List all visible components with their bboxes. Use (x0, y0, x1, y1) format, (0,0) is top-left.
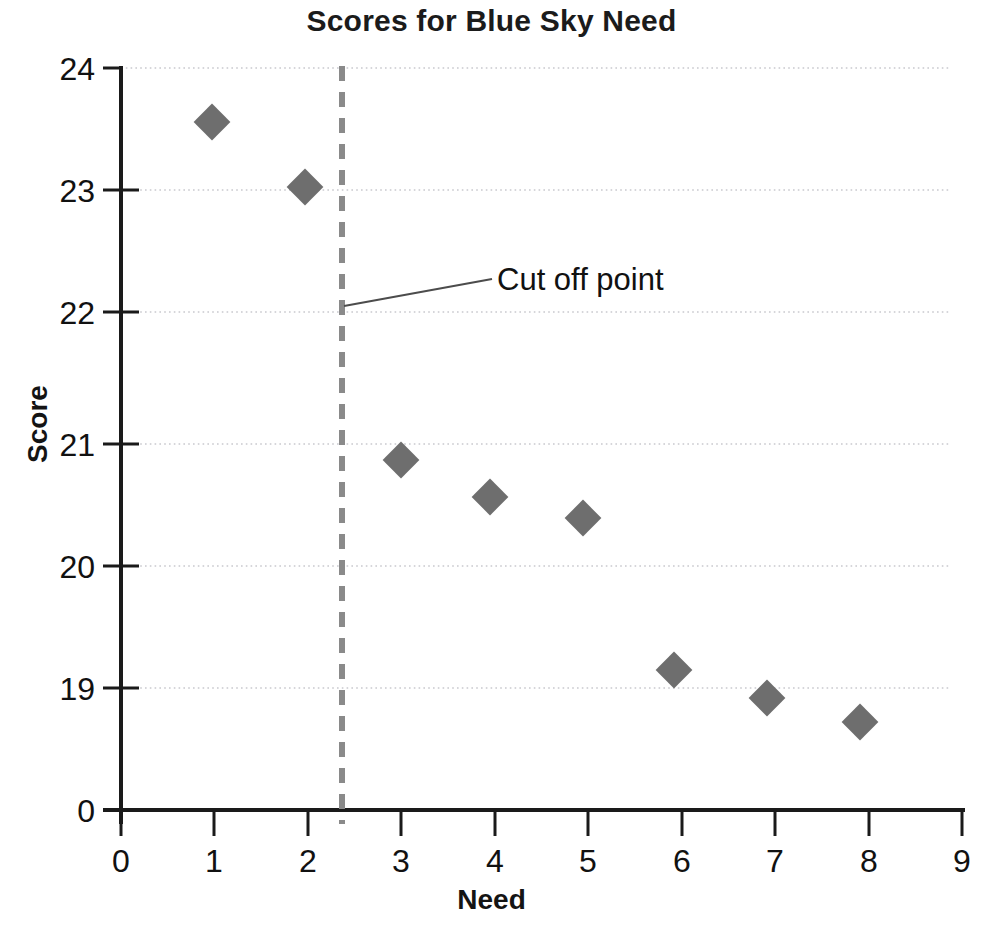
y-tick-label-19: 19 (59, 671, 95, 707)
cut-off-point-label: Cut off point (497, 262, 664, 297)
data-point-marker[interactable] (749, 680, 786, 717)
y-tick-label-21: 21 (59, 427, 95, 463)
x-tick-label-0: 0 (112, 843, 130, 879)
cut-off-point-leader-line (344, 279, 492, 306)
chart-page: Scores for Blue Sky Need 24 23 22 21 20 (0, 0, 983, 932)
y-tick-label-23: 23 (59, 173, 95, 209)
scatter-plot: 24 23 22 21 20 19 0 0 1 2 3 4 5 (0, 0, 983, 932)
x-tick-label-3: 3 (392, 843, 410, 879)
x-axis-title: Need (0, 884, 983, 916)
data-point-marker[interactable] (656, 652, 693, 689)
x-tick-label-5: 5 (579, 843, 597, 879)
y-tick-label-22: 22 (59, 295, 95, 331)
data-point-marker[interactable] (565, 500, 602, 537)
gridlines-horizontal (121, 68, 950, 688)
x-tick-label-8: 8 (860, 843, 878, 879)
data-point-marker[interactable] (194, 104, 231, 141)
y-tick-label-0: 0 (77, 793, 95, 829)
x-tick-label-6: 6 (673, 843, 691, 879)
y-tick-label-20: 20 (59, 549, 95, 585)
data-point-marker[interactable] (287, 169, 324, 206)
data-point-marker[interactable] (842, 704, 879, 741)
x-tick-label-7: 7 (766, 843, 784, 879)
x-tick-label-4: 4 (486, 843, 504, 879)
y-tick-label-24: 24 (59, 51, 95, 87)
data-points (194, 104, 879, 741)
y-axis: 24 23 22 21 20 19 0 (59, 51, 139, 829)
x-tick-label-1: 1 (205, 843, 223, 879)
data-point-marker[interactable] (472, 479, 509, 516)
x-axis: 0 1 2 3 4 5 6 7 8 9 (103, 810, 971, 879)
x-tick-label-9: 9 (953, 843, 971, 879)
y-axis-title: Score (22, 354, 54, 494)
x-tick-label-2: 2 (299, 843, 317, 879)
data-point-marker[interactable] (383, 442, 420, 479)
